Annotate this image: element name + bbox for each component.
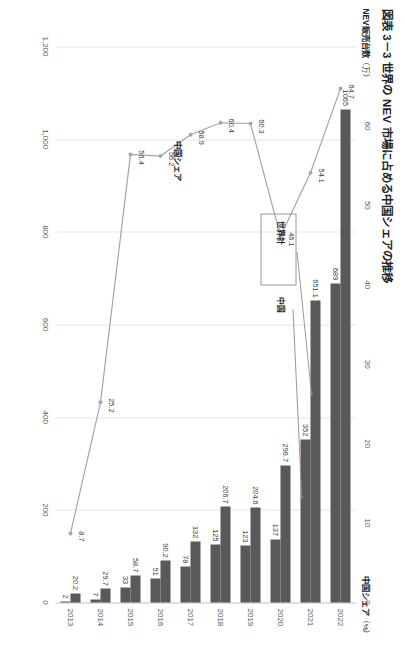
left-axis-tick-1,000: 1,000 — [40, 129, 49, 149]
left-axis-tick-200: 200 — [40, 503, 49, 516]
category-tick-2020: 2020 — [276, 608, 285, 626]
category-tick-2014: 2014 — [96, 608, 105, 626]
left-axis-tick-600: 600 — [40, 317, 49, 330]
page-title: 図表 3－3 世界の NEV 市場に占める中国シェアの推移 — [379, 8, 395, 283]
left-axis-unit: （万） — [360, 57, 369, 81]
chart-stage: 図表 3－3 世界の NEV 市場に占める中国シェアの推移 NEV販売台数（万）… — [0, 0, 405, 646]
right-axis-tick-20: 20 — [362, 439, 371, 448]
right-axis-tick-60: 60 — [362, 121, 371, 130]
left-axis-tick-0: 0 — [40, 600, 49, 604]
right-axis-tick-30: 30 — [362, 359, 371, 368]
right-axis-title-text: 中国シェア — [360, 575, 370, 615]
category-tick-2018: 2018 — [216, 608, 225, 626]
right-axis-tick-70: 70 — [362, 42, 371, 51]
category-tick-2016: 2016 — [156, 608, 165, 626]
left-axis-tick-1,200: 1,200 — [40, 36, 49, 56]
arrow-world-head — [309, 392, 312, 396]
callout-arrows — [55, 46, 355, 602]
category-tick-2015: 2015 — [126, 608, 135, 626]
category-tick-2021: 2021 — [306, 608, 315, 626]
category-tick-2019: 2019 — [246, 608, 255, 626]
left-axis-tick-400: 400 — [40, 410, 49, 423]
right-axis-tick-40: 40 — [362, 280, 371, 289]
right-axis-title: 中国シェア（%） — [360, 575, 372, 638]
right-axis-unit: （%） — [360, 615, 369, 638]
category-tick-2013: 2013 — [66, 608, 75, 626]
right-axis-tick-50: 50 — [362, 200, 371, 209]
series-label-china-share: 中国シェア — [172, 140, 184, 180]
right-axis-tick-10: 10 — [362, 518, 371, 527]
plot-area: 20.2229.7758.73390.25113278206.7125204.6… — [55, 46, 355, 602]
arrow-china — [293, 309, 302, 499]
category-tick-2017: 2017 — [186, 608, 195, 626]
left-axis-tick-800: 800 — [40, 225, 49, 238]
figure-page: 図表 3－3 世界の NEV 市場に占める中国シェアの推移 NEV販売台数（万）… — [0, 0, 405, 646]
right-axis-tick-0: 0 — [362, 600, 371, 604]
category-tick-2022: 2022 — [336, 608, 345, 626]
arrow-china-head — [300, 495, 303, 499]
arrow-world — [297, 251, 312, 395]
